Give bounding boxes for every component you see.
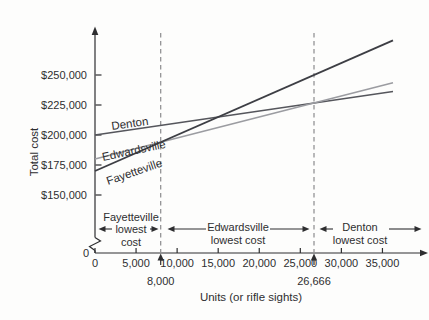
x-tick-label: 30,000 bbox=[325, 257, 359, 269]
y-axis-title: Total cost bbox=[28, 127, 40, 176]
figure: $150,000$175,000$200,000$225,000$250,000… bbox=[0, 0, 429, 320]
y-tick-label: $200,000 bbox=[41, 129, 87, 141]
y-tick-label: $225,000 bbox=[41, 99, 87, 111]
region-right-arrow-icon bbox=[152, 226, 159, 232]
x-tick-label: 10,000 bbox=[160, 257, 194, 269]
x-tick-label: 5,000 bbox=[122, 257, 150, 269]
y-tick-label: $175,000 bbox=[41, 159, 87, 171]
region-label-denton: Denton bbox=[342, 221, 377, 233]
region-label-edwardsville: Edwardsville bbox=[207, 221, 269, 233]
x-tick-label: 35,000 bbox=[366, 257, 400, 269]
y-tick-label: $250,000 bbox=[41, 69, 87, 81]
region-label-fayetteville: Fayetteville bbox=[103, 211, 159, 223]
region-label-fayetteville: lowest bbox=[115, 223, 146, 235]
region-label-fayetteville: cost bbox=[121, 236, 141, 248]
x-tick-label: 15,000 bbox=[201, 257, 235, 269]
region-right-arrow-icon bbox=[303, 226, 310, 232]
y-tick-label: $150,000 bbox=[41, 189, 87, 201]
x-axis-arrow-icon bbox=[420, 250, 428, 257]
series-label-fayetteville: Fayetteville bbox=[105, 157, 164, 187]
x-tick-label: 0 bbox=[92, 257, 98, 269]
crossover-label: 8,000 bbox=[147, 275, 175, 287]
region-label-denton: lowest cost bbox=[333, 234, 387, 246]
region-left-arrow-icon bbox=[320, 226, 327, 232]
series-line-denton bbox=[95, 91, 393, 135]
region-left-arrow-icon bbox=[99, 226, 106, 232]
crossover-label: 26,666 bbox=[297, 275, 331, 287]
series-label-denton: Denton bbox=[111, 115, 149, 132]
region-left-arrow-icon bbox=[168, 226, 175, 232]
x-axis-title: Units (or rifle sights) bbox=[200, 291, 302, 303]
y-origin-label: 0 bbox=[83, 247, 89, 259]
region-right-arrow-icon bbox=[415, 226, 422, 232]
location-breakeven-chart: $150,000$175,000$200,000$225,000$250,000… bbox=[0, 0, 429, 320]
x-tick-label: 20,000 bbox=[242, 257, 276, 269]
region-label-edwardsville: lowest cost bbox=[211, 234, 265, 246]
y-axis-arrow-icon bbox=[92, 27, 99, 36]
